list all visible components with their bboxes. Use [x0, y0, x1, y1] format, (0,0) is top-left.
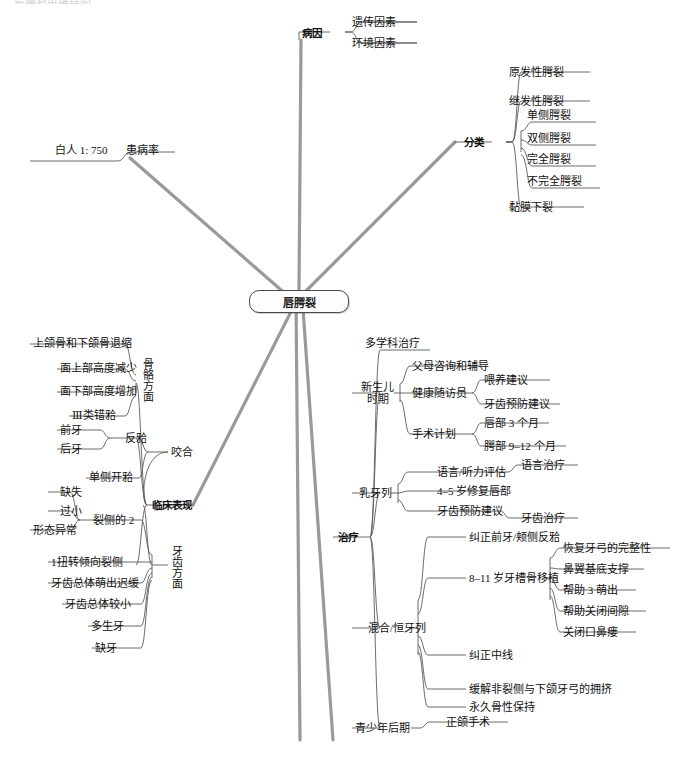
treatment-group-late-adolescence[interactable]: 青少年后期: [355, 722, 410, 734]
etiology-item-1[interactable]: 环境因素: [352, 37, 396, 49]
clinical-group-skeletal-label[interactable]: 骨骼方面: [142, 358, 153, 404]
prevalence-item-0[interactable]: 白人 1: 750: [55, 144, 108, 156]
newborn-item-surgeryplan[interactable]: 手术计划: [412, 428, 456, 440]
bonegraft-child-2[interactable]: 帮助 3 萌出: [563, 584, 618, 596]
cropped-title-text: 唇腭裂思维导图: [14, 0, 91, 4]
classification-item-6[interactable]: 黏膜下裂: [509, 201, 553, 213]
classification-item-2[interactable]: 单侧腭裂: [527, 109, 571, 121]
occlusion-item-1[interactable]: 单侧开𬌗: [89, 471, 133, 483]
skeletal-item-1[interactable]: 面上部高度减少: [60, 362, 137, 374]
branch-prevalence-label[interactable]: 患病率: [126, 144, 159, 156]
classification-item-0[interactable]: 原发性腭裂: [509, 66, 564, 78]
branch-etiology-label[interactable]: 病因: [302, 27, 322, 39]
center-node-cleft-lip-palate[interactable]: 唇腭裂: [249, 290, 349, 313]
occlusion-item-reverse[interactable]: 反𬌗: [125, 432, 147, 444]
cleftside2-child-2[interactable]: 形态异常: [33, 524, 77, 536]
healthvisitor-child-1[interactable]: 牙齿预防建议: [484, 398, 550, 410]
occlusion-reverse-child-0[interactable]: 前牙: [60, 424, 82, 436]
primary-item-1[interactable]: 4–5 岁修复唇部: [437, 485, 511, 497]
clinical-group-dental-text: 牙齿方面: [171, 545, 182, 589]
clinical-group-skeletal-text: 骨骼方面: [142, 358, 153, 402]
mindmap-canvas: 唇腭裂思维导图: [0, 0, 696, 772]
treatment-group-mixed-permanent[interactable]: 混合/恒牙列: [368, 622, 426, 634]
treatment-group-multidisciplinary[interactable]: 多学科治疗: [365, 337, 420, 349]
surgeryplan-child-1[interactable]: 腭部 9–12 个月: [484, 440, 556, 452]
primary-item-0[interactable]: 语言/听力评估: [437, 466, 506, 478]
branch-clinical-label[interactable]: 临床表现: [152, 499, 192, 511]
mixed-item-4[interactable]: 永久骨性保持: [469, 701, 535, 713]
skeletal-item-0[interactable]: 上颌骨和下颌骨退缩: [33, 337, 132, 349]
cleftside2-child-0[interactable]: 缺失: [60, 486, 82, 498]
bonegraft-child-0[interactable]: 恢复牙弓的完整性: [563, 542, 651, 554]
dental-item-4[interactable]: 多生牙: [91, 620, 124, 632]
treatment-group-newborn-line2: 时期: [361, 393, 394, 405]
dental-item-3[interactable]: 牙齿总体较小: [65, 598, 131, 610]
classification-item-4[interactable]: 完全腭裂: [527, 153, 571, 165]
branch-treatment-label[interactable]: 治疗: [338, 531, 358, 543]
classification-item-3[interactable]: 双侧腭裂: [527, 132, 571, 144]
classification-item-1[interactable]: 继发性腭裂: [509, 95, 564, 107]
mixed-item-2[interactable]: 纠正中线: [469, 649, 513, 661]
occlusion-reverse-child-1[interactable]: 后牙: [60, 443, 82, 455]
clinical-group-dental-label[interactable]: 牙齿方面: [171, 545, 182, 591]
newborn-item-healthvisitor[interactable]: 健康随访员: [412, 387, 467, 399]
dental-item-5[interactable]: 缺牙: [95, 642, 117, 654]
late-adolescence-child-0[interactable]: 正颌手术: [446, 716, 490, 728]
newborn-item-0[interactable]: 父母咨询和辅导: [412, 360, 489, 372]
bonegraft-child-1[interactable]: 鼻翼基底支撑: [563, 563, 629, 575]
classification-item-5[interactable]: 不完全腭裂: [527, 175, 582, 187]
mixed-item-0[interactable]: 纠正前牙/颊侧反𬌗: [469, 531, 560, 543]
cleftside2-child-1[interactable]: 过小: [60, 505, 82, 517]
mixed-item-bonegraft[interactable]: 8–11 岁牙槽骨移植: [469, 572, 559, 584]
clinical-group-occlusion-label[interactable]: 咬合: [171, 446, 193, 458]
healthvisitor-child-0[interactable]: 喂养建议: [484, 374, 528, 386]
primary-item-2[interactable]: 牙齿预防建议: [437, 505, 503, 517]
skeletal-item-3[interactable]: Ⅲ类错𬌗: [72, 409, 116, 421]
dental-item-2[interactable]: 牙齿总体萌出迟缓: [51, 577, 139, 589]
dental-item-1[interactable]: 1扭转倾向裂侧: [51, 556, 123, 568]
bonegraft-child-4[interactable]: 关闭口鼻瘘: [563, 626, 618, 638]
primary-item-2-child-0[interactable]: 牙齿治疗: [521, 512, 565, 524]
treatment-group-primary-dentition[interactable]: 乳牙列: [359, 487, 392, 499]
dental-item-cleftside2[interactable]: 裂侧的 2: [93, 514, 134, 526]
treatment-group-newborn[interactable]: 新生儿 时期: [361, 381, 394, 405]
treatment-group-newborn-line1: 新生儿: [361, 381, 394, 393]
bonegraft-child-3[interactable]: 帮助关闭间隙: [563, 605, 629, 617]
primary-item-0-child-0[interactable]: 语言治疗: [521, 459, 565, 471]
etiology-item-0[interactable]: 遗传因素: [352, 16, 396, 28]
branch-classification-label[interactable]: 分类: [464, 136, 484, 148]
mixed-item-3[interactable]: 缓解非裂侧与下颌牙弓的拥挤: [469, 683, 612, 695]
surgeryplan-child-0[interactable]: 唇部 3 个月: [484, 417, 539, 429]
skeletal-item-2[interactable]: 面下部高度增加: [60, 385, 137, 397]
